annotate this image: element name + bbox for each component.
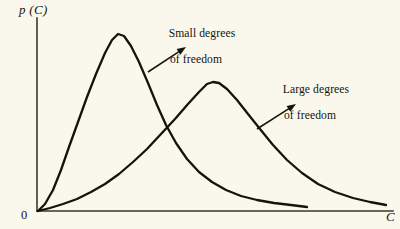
figure-container: p (C) C 0 Small degrees of freedom Large…	[0, 0, 400, 229]
origin-label: 0	[21, 208, 27, 222]
annotation-large-line2: of freedom	[258, 109, 362, 122]
x-axis-label: C	[386, 210, 395, 225]
annotation-small-degrees: Small degrees of freedom	[144, 14, 248, 92]
annotation-small-line1: Small degrees	[169, 27, 236, 40]
y-axis-label: p (C)	[19, 3, 48, 18]
annotation-small-line2: of freedom	[144, 53, 248, 66]
annotation-large-degrees: Large degrees of freedom	[258, 70, 362, 148]
annotation-large-line1: Large degrees	[283, 83, 349, 96]
